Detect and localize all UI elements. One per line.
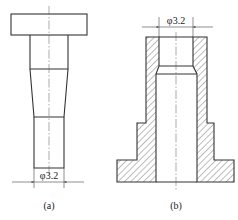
dimension-text-b: φ3.2	[167, 15, 185, 26]
technical-drawing: φ3.2 (a) φ3.2 (b)	[0, 0, 238, 220]
figure-a-pin: φ3.2 (a)	[11, 6, 87, 212]
figure-label-b: (b)	[170, 200, 182, 212]
dimension-text-a: φ3.2	[40, 170, 58, 181]
figure-b-bushing: φ3.2 (b)	[117, 15, 234, 212]
section-right-wall	[193, 37, 234, 182]
section-left-wall	[117, 37, 159, 182]
figure-label-a: (a)	[43, 200, 54, 212]
